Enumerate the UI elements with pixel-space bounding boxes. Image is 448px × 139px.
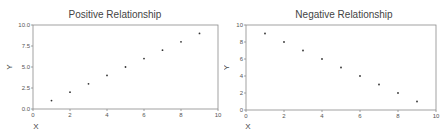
x-axis-label: X: [33, 122, 39, 131]
data-point: [302, 50, 304, 52]
negative-chart-svg: Negative Relationship02468100246810XY: [224, 0, 448, 139]
y-axis-label: Y: [224, 64, 231, 70]
data-point: [340, 67, 342, 69]
y-tick-label: 8: [240, 39, 244, 45]
data-point: [321, 58, 323, 60]
data-point: [283, 41, 285, 43]
chart-title: Positive Relationship: [69, 9, 162, 20]
data-point: [106, 75, 108, 77]
x-tick-label: 2: [68, 112, 72, 118]
x-tick-label: 6: [358, 113, 362, 119]
y-tick-label: 0.0: [22, 106, 31, 112]
data-point: [143, 58, 145, 60]
x-tick-label: 6: [142, 112, 146, 118]
x-tick-label: 4: [320, 113, 324, 119]
x-tick-label: 0: [31, 112, 35, 118]
x-tick-label: 8: [396, 113, 400, 119]
negative-relationship-chart: Negative Relationship02468100246810XY: [224, 0, 448, 139]
x-axis-label: X: [245, 122, 251, 131]
y-tick-label: 10: [236, 22, 243, 28]
y-tick-label: 2.5: [22, 85, 31, 91]
y-tick-label: 6: [240, 56, 244, 62]
data-point: [359, 75, 361, 77]
data-point: [180, 41, 182, 43]
data-point: [125, 66, 127, 68]
x-tick-label: 10: [215, 112, 222, 118]
y-tick-label: 2: [240, 90, 244, 96]
positive-chart-svg: Positive Relationship02468100.02.55.07.5…: [0, 0, 224, 139]
data-point: [51, 100, 53, 102]
positive-relationship-chart: Positive Relationship02468100.02.55.07.5…: [0, 0, 224, 139]
y-tick-label: 7.5: [22, 43, 31, 49]
x-tick-label: 2: [282, 113, 286, 119]
y-tick-label: 0: [240, 107, 244, 113]
data-point: [378, 84, 380, 86]
x-tick-label: 0: [244, 113, 248, 119]
x-tick-label: 4: [105, 112, 109, 118]
data-point: [88, 83, 90, 85]
x-tick-label: 8: [179, 112, 183, 118]
data-point: [162, 49, 164, 51]
data-point: [397, 92, 399, 94]
y-axis-label: Y: [5, 64, 14, 70]
y-tick-label: 5.0: [22, 64, 31, 70]
data-point: [199, 33, 201, 35]
chart-title: Negative Relationship: [295, 9, 393, 20]
x-tick-label: 10: [433, 113, 440, 119]
data-point: [69, 91, 71, 93]
data-point: [416, 101, 418, 103]
y-tick-label: 10.0: [18, 22, 30, 28]
y-tick-label: 4: [240, 73, 244, 79]
data-point: [264, 33, 266, 35]
